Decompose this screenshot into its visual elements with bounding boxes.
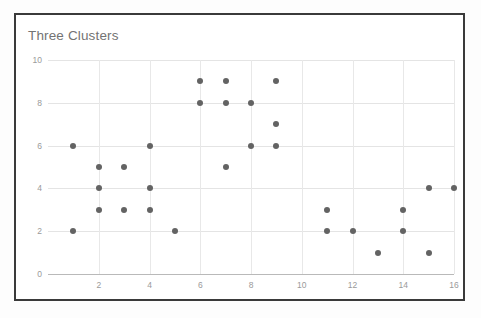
x-axis-tick-label: 4: [136, 280, 164, 290]
data-point: [223, 100, 229, 106]
data-point: [147, 185, 153, 191]
y-axis-tick-label: 2: [20, 226, 42, 236]
data-point: [96, 185, 102, 191]
data-point: [121, 207, 127, 213]
gridline-vertical: [454, 60, 455, 274]
data-point: [197, 78, 203, 84]
x-axis-tick-label: 10: [288, 280, 316, 290]
data-point: [197, 100, 203, 106]
gridline-vertical: [302, 60, 303, 274]
scatter-plot-area: 0246810246810121416: [16, 15, 463, 299]
data-point: [350, 228, 356, 234]
data-point: [147, 143, 153, 149]
gridline-vertical: [353, 60, 354, 274]
data-point: [273, 121, 279, 127]
x-axis-tick-label: 2: [85, 280, 113, 290]
page-root: Three Clusters 0246810246810121416: [0, 0, 481, 318]
data-point: [426, 185, 432, 191]
data-point: [172, 228, 178, 234]
data-point: [223, 78, 229, 84]
gridline-horizontal: [48, 274, 454, 275]
x-axis-tick-label: 16: [440, 280, 468, 290]
gridline-vertical: [150, 60, 151, 274]
data-point: [273, 78, 279, 84]
gridline-vertical: [403, 60, 404, 274]
data-point: [147, 207, 153, 213]
chart-card: Three Clusters 0246810246810121416: [14, 13, 465, 301]
data-point: [70, 228, 76, 234]
y-axis-tick-label: 0: [20, 269, 42, 279]
y-axis-tick-label: 6: [20, 141, 42, 151]
data-point: [451, 185, 457, 191]
data-point: [248, 100, 254, 106]
gridline-vertical: [200, 60, 201, 274]
data-point: [400, 228, 406, 234]
x-axis-tick-label: 6: [186, 280, 214, 290]
data-point: [324, 228, 330, 234]
data-point: [121, 164, 127, 170]
data-point: [375, 250, 381, 256]
data-point: [248, 143, 254, 149]
data-point: [96, 207, 102, 213]
y-axis-tick-label: 8: [20, 98, 42, 108]
data-point: [273, 143, 279, 149]
x-axis-tick-label: 12: [339, 280, 367, 290]
data-point: [70, 143, 76, 149]
y-axis-tick-label: 4: [20, 183, 42, 193]
data-point: [223, 164, 229, 170]
data-point: [96, 164, 102, 170]
data-point: [400, 207, 406, 213]
x-axis-tick-label: 14: [389, 280, 417, 290]
gridline-vertical: [251, 60, 252, 274]
x-axis-tick-label: 8: [237, 280, 265, 290]
data-point: [324, 207, 330, 213]
y-axis-tick-label: 10: [20, 55, 42, 65]
data-point: [426, 250, 432, 256]
